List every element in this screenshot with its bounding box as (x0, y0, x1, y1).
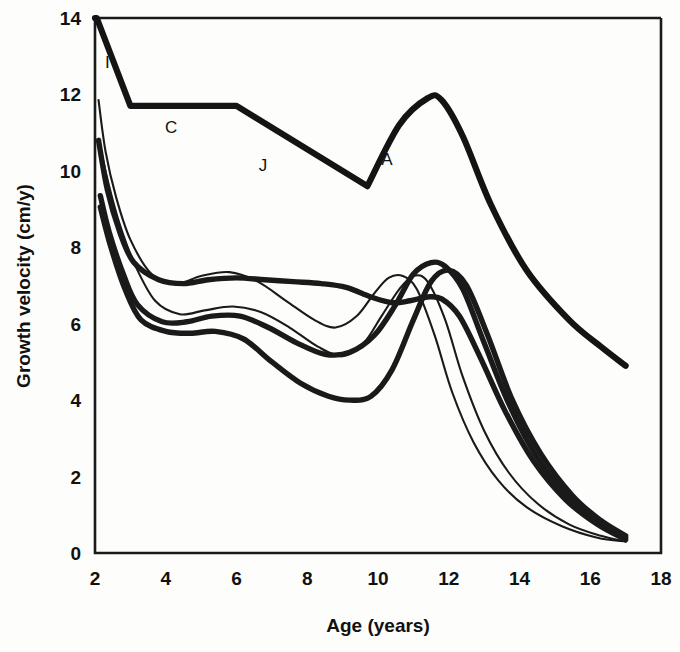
growth-velocity-chart: 02468101214 24681012141618 Growth veloci… (0, 0, 680, 652)
curve-3 (99, 140, 626, 539)
data-curves (95, 18, 626, 542)
x-tick-label: 10 (367, 568, 388, 589)
y-tick-label: 14 (60, 8, 82, 29)
y-axis-tick-labels: 02468101214 (60, 8, 82, 564)
curve-4 (100, 196, 625, 538)
annotation-juvenile-component: J (259, 156, 268, 175)
x-tick-label: 16 (580, 568, 601, 589)
y-tick-label: 4 (70, 390, 81, 411)
y-tick-label: 8 (70, 237, 81, 258)
x-tick-label: 14 (509, 568, 531, 589)
x-axis-title: Age (years) (326, 615, 430, 636)
x-tick-label: 4 (160, 568, 171, 589)
x-axis-tick-labels: 24681012141618 (90, 568, 672, 589)
chart-canvas: 02468101214 24681012141618 Growth veloci… (0, 0, 680, 652)
annotation-infancy-component: I (105, 53, 110, 72)
y-tick-label: 0 (70, 543, 81, 564)
y-tick-label: 10 (60, 161, 81, 182)
y-tick-label: 6 (70, 314, 81, 335)
annotation-childhood-component: C (165, 118, 177, 137)
x-tick-label: 2 (90, 568, 101, 589)
x-tick-label: 12 (438, 568, 459, 589)
y-axis-title: Growth velocity (cm/y) (13, 184, 34, 388)
y-tick-label: 2 (70, 467, 81, 488)
x-tick-label: 18 (650, 568, 671, 589)
y-tick-label: 12 (60, 84, 81, 105)
x-tick-label: 6 (231, 568, 242, 589)
curve-5 (100, 207, 625, 536)
x-tick-label: 8 (302, 568, 313, 589)
annotation-adolescence-component: A (381, 150, 393, 169)
